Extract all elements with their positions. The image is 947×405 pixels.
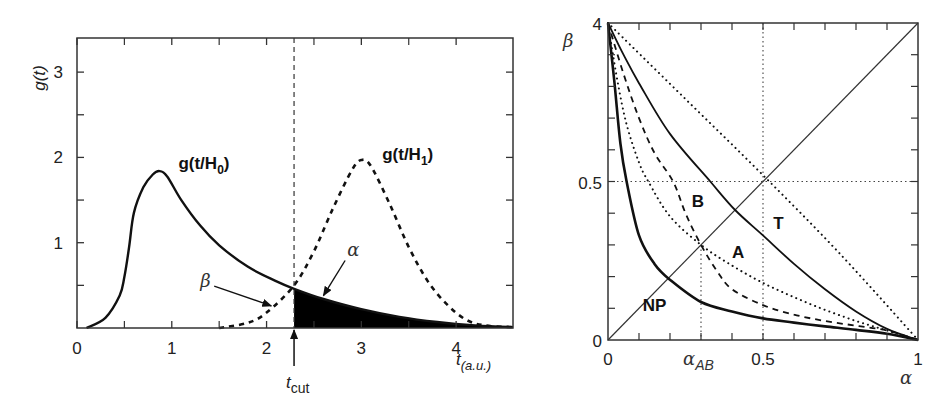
annotation-arrow [214,286,271,306]
t-cut-label: tcut [286,373,310,396]
y-tick-label: 2 [54,148,63,167]
diagonal-line [608,23,918,340]
curve-t [608,23,918,340]
axis-ticks: 00.5100.54 [578,15,922,369]
plot-frame [608,23,918,340]
alpha-shaded-region [294,289,513,328]
alpha-ab-label: αAB [683,348,714,373]
curve-label-h1: g(t/H1) [382,145,433,168]
curve-dashed [608,23,918,340]
beta-label: β [199,270,210,291]
annotation-arrow [323,261,345,296]
region-label-a: A [732,243,744,262]
region-label-t: T [773,214,784,233]
x-tick-label: 0.5 [751,350,775,369]
region-labels: BTANP [643,192,785,316]
alpha-area [294,289,513,328]
y-tick-label: 1 [54,234,63,253]
y-axis-title: g(t) [30,65,49,91]
region-label-np: NP [643,296,667,315]
x-tick-label: 1 [913,350,922,369]
x-tick-label: 2 [262,339,271,358]
x-axis-title: t(a.u.) [456,350,491,373]
y-tick-label: 3 [54,63,63,82]
y-tick-label: 4 [593,15,602,34]
curve-inner-dotted [608,23,918,340]
tradeoff-curves [608,23,918,340]
x-tick-label: 0 [603,350,612,369]
reference-lines [608,23,918,340]
x-tick-label: 1 [167,339,176,358]
curve-np [608,23,918,340]
alpha-label: α [347,239,359,260]
x-axis-title: α [900,367,912,388]
axis-ticks: 01234123 [54,38,513,358]
region-label-b: B [692,192,704,211]
x-tick-label: 3 [357,339,366,358]
left-chart-distributions: 01234123 tcut g(t) t(a.u.) g(t/H0) g(t/H… [0,0,530,405]
curve-outer-dotted [608,23,918,340]
y-axis-title: β [562,30,573,51]
curve-label-h0: g(t/H0) [178,154,229,177]
x-tick-label: 0 [72,339,81,358]
y-tick-label: 0 [593,332,602,351]
y-tick-label: 0.5 [578,174,602,193]
